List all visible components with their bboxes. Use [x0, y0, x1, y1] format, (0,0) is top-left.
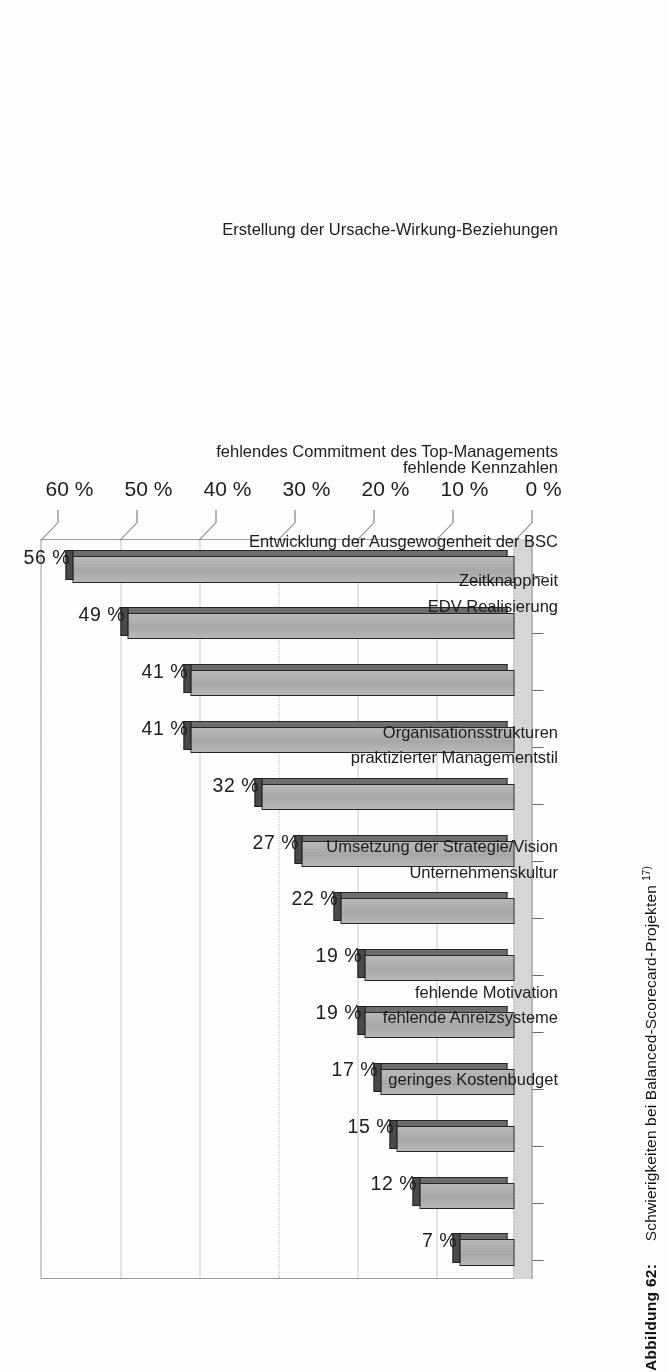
- category-label: praktizierter Managementstil: [350, 748, 557, 767]
- category-tick: [532, 918, 543, 919]
- axis-depth-connector: [40, 523, 57, 541]
- axis-tick-label: 60 %: [45, 477, 93, 501]
- axis-tick-label: 50 %: [124, 477, 172, 501]
- axis-depth-connector: [119, 523, 136, 541]
- axis-tick: [452, 510, 453, 523]
- category-label: geringes Kostenbudget: [388, 1070, 558, 1089]
- category-label: fehlende Kennzahlen: [402, 458, 557, 477]
- category-tick: [532, 1146, 543, 1147]
- value-axis: 0 %10 %20 %30 %40 %50 %60 %: [40, 539, 514, 1279]
- category-label: Organisationsstrukturen: [382, 723, 557, 742]
- category-tick: [532, 690, 543, 691]
- caption-number: Abbildung 62:: [641, 1264, 658, 1371]
- figure-page: 7 %12 %15 %17 %19 %19 %22 %27 %32 %41 %4…: [0, 0, 669, 1372]
- axis-tick-label: 0 %: [525, 477, 561, 501]
- category-axis: [40, 1282, 514, 1372]
- category-label: Erstellung der Ursache-Wirkung-Beziehung…: [222, 221, 558, 240]
- axis-tick: [373, 510, 374, 523]
- category-label: EDV-Realisierung: [427, 597, 557, 616]
- category-tick: [532, 1089, 543, 1090]
- category-tick: [532, 576, 543, 577]
- category-label: fehlende Motivation: [414, 983, 557, 1002]
- bar-chart: 7 %12 %15 %17 %19 %19 %22 %27 %32 %41 %4…: [40, 510, 640, 1372]
- category-label: Unternehmenskultur: [409, 863, 558, 882]
- axis-tick-label: 20 %: [361, 477, 409, 501]
- axis-tick: [136, 510, 137, 523]
- category-tick: [532, 1032, 543, 1033]
- caption-footnote: 17): [640, 866, 651, 880]
- category-tick: [532, 747, 543, 748]
- axis-tick-label: 30 %: [282, 477, 330, 501]
- category-label: fehlende Anreizsysteme: [382, 1007, 557, 1026]
- axis-tick: [215, 510, 216, 523]
- category-tick: [532, 975, 543, 976]
- axis-depth-connector: [198, 523, 215, 541]
- axis-tick: [57, 510, 58, 523]
- axis-tick-label: 40 %: [203, 477, 251, 501]
- category-tick: [532, 861, 543, 862]
- caption-text: Schwierigkeiten bei Balanced-Scorecard-P…: [641, 885, 658, 1241]
- figure-caption: Abbildung 62: Schwierigkeiten bei Balanc…: [640, 0, 659, 1371]
- category-tick: [532, 633, 543, 634]
- category-tick: [532, 804, 543, 805]
- rotated-figure-stage: 7 %12 %15 %17 %19 %19 %22 %27 %32 %41 %4…: [0, 0, 669, 1372]
- axis-tick: [294, 510, 295, 523]
- category-label: Entwicklung der Ausgewogenheit der BSC: [248, 532, 557, 551]
- axis-tick: [531, 510, 532, 523]
- category-tick: [532, 1203, 543, 1204]
- category-tick: [532, 1260, 543, 1261]
- floor-top-face: [514, 539, 532, 1279]
- axis-tick-label: 10 %: [440, 477, 488, 501]
- category-label: Zeitknappheit: [458, 571, 557, 590]
- category-label: Umsetzung der Strategie/Vision: [326, 837, 558, 856]
